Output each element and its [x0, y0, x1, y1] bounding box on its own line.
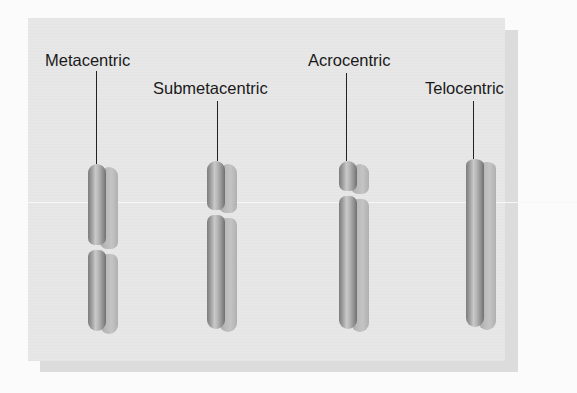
leader-line-metacentric — [96, 71, 97, 164]
label-submetacentric: Submetacentric — [153, 79, 268, 97]
chromosome-acrocentric — [339, 161, 371, 333]
chromosome-metacentric — [88, 164, 120, 334]
chromosome-telocentric — [466, 159, 498, 331]
leader-line-acrocentric — [346, 73, 347, 161]
leader-line-submetacentric — [217, 101, 218, 161]
chromosome-submetacentric — [207, 161, 239, 333]
label-telocentric: Telocentric — [425, 79, 504, 97]
label-metacentric: Metacentric — [45, 51, 130, 69]
leader-line-telocentric — [473, 101, 474, 159]
label-acrocentric: Acrocentric — [308, 51, 391, 69]
